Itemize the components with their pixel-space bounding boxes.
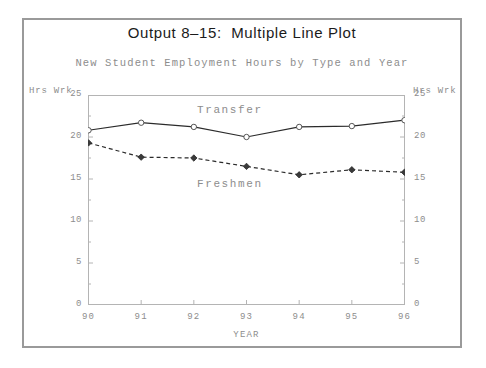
data-point-transfer-90 [88,128,91,133]
data-point-transfer-96 [402,118,405,123]
data-point-transfer-91 [138,120,143,125]
x-tick-94: 94 [287,312,311,322]
x-tick-93: 93 [235,312,259,322]
y-tick-right-0: 0 [414,299,440,309]
y-tick-left-0: 0 [56,299,82,309]
data-point-freshmen-93 [243,163,249,169]
x-tick-95: 95 [340,312,364,322]
x-tick-90: 90 [77,312,101,322]
x-tick-91: 91 [129,312,153,322]
data-point-transfer-94 [296,124,301,129]
y-tick-right-20: 20 [414,131,440,141]
y-tick-left-20: 20 [56,131,82,141]
data-point-transfer-93 [244,134,249,139]
y-tick-right-15: 15 [414,173,440,183]
y-tick-left-10: 10 [56,215,82,225]
chart-subtitle: New Student Employment Hours by Type and… [22,57,462,69]
data-point-freshmen-95 [349,167,355,173]
data-point-freshmen-90 [88,140,92,146]
x-tick-96: 96 [393,312,417,322]
screenshot-root: Output 8–15: Multiple Line Plot New Stud… [0,0,486,368]
series-label-transfer: Transfer [197,104,263,116]
page-title: Output 8–15: Multiple Line Plot [22,24,462,41]
y-tick-left-15: 15 [56,173,82,183]
axis-tick-marks [88,95,405,305]
data-point-freshmen-91 [138,154,144,160]
y-tick-left-5: 5 [56,257,82,267]
x-axis-title: YEAR [88,330,405,340]
data-point-transfer-95 [349,123,354,128]
data-point-freshmen-92 [191,155,197,161]
y-tick-left-25: 25 [56,89,82,99]
series-layer [88,118,405,179]
data-point-transfer-92 [191,124,196,129]
series-label-freshmen: Freshmen [197,178,263,190]
line-chart-canvas [88,95,405,305]
data-point-freshmen-96 [401,169,405,175]
y-tick-right-5: 5 [414,257,440,267]
y-tick-right-25: 25 [414,89,440,99]
y-tick-right-10: 10 [414,215,440,225]
data-point-freshmen-94 [296,172,302,178]
x-tick-92: 92 [182,312,206,322]
